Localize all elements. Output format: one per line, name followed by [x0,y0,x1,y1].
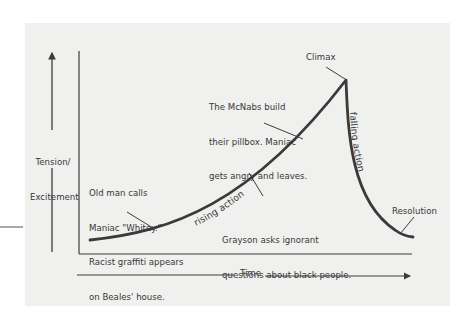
annotation-line: Grayson asks ignorant [222,235,351,247]
annotation-line: Old man calls [89,188,184,200]
annotation-line: The McNabs build [209,102,307,114]
climax-leader [326,67,345,79]
y-axis-label-line-1: Tension/ [30,157,76,169]
falling-action-label: falling action [348,112,367,173]
annotation-line: their pillbox. Maniac [209,137,307,149]
annotation-line: on Beales' house. [89,292,184,304]
annotation-line: questions about black people. [222,270,351,282]
annotation-old-man: Old man calls Maniac "Whitey." Racist gr… [89,165,184,315]
annotation-line: Racist graffiti appears [89,257,184,269]
annotation-line: Maniac "Whitey." [89,223,184,235]
resolution-leader [400,217,414,234]
y-axis-label-line-2: Excitement [30,192,76,204]
y-axis-label: Tension/ Excitement [30,134,76,215]
annotation-mcnabs: The McNabs build their pillbox. Maniac g… [209,79,307,194]
climax-label: Climax [306,52,336,64]
annotation-line: gets angry and leaves. [209,171,307,183]
annotation-grayson: Grayson asks ignorant questions about bl… [222,212,351,293]
resolution-label: Resolution [392,206,437,218]
